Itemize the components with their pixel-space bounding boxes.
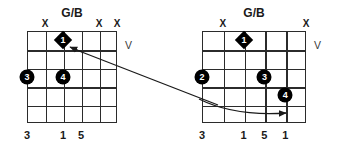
finger-number: 3 [262,73,267,82]
string-line [82,32,83,122]
fret-line [203,69,305,70]
interval-label: 1 [282,130,288,141]
position-marker-right: V [314,40,321,51]
interval-label: 1 [60,130,66,141]
fretboard-grid-left [27,31,117,123]
fret-line [203,50,305,51]
string-line [46,32,47,122]
fret-line [203,87,305,88]
fret-line [28,87,116,88]
fret-line [28,50,116,51]
finger-number: 1 [60,36,65,45]
interval-label: 5 [261,130,267,141]
interval-label: 3 [24,130,30,141]
fret-line [28,69,116,70]
finger-number: 2 [199,73,204,82]
interval-label: 5 [78,130,84,141]
finger-number: 1 [241,36,246,45]
fret-line [28,106,116,107]
finger-dot: 2 [195,70,210,85]
mute-x-icon: X [303,19,310,29]
mute-x-icon: X [114,19,121,29]
finger-number: 3 [24,73,29,82]
mute-x-icon: X [42,19,49,29]
fret-line [203,106,305,107]
string-line [224,32,225,122]
mute-x-icon: X [219,19,226,29]
finger-dot: 4 [278,88,293,103]
string-line [100,32,101,122]
string-line [286,32,287,122]
finger-number: 4 [283,91,288,100]
finger-dot: 4 [56,70,71,85]
chord-diagram-canvas: G/B XXX 134 315 V G/B XX 1234 3151 V [0,0,344,153]
interval-label: 3 [199,130,205,141]
finger-dot: 3 [20,70,35,85]
finger-number: 4 [60,73,65,82]
mute-x-icon: X [96,19,103,29]
fretboard-grid-right [202,31,306,123]
position-marker-left: V [125,40,132,51]
finger-dot: 3 [257,70,272,85]
interval-label: 1 [241,130,247,141]
